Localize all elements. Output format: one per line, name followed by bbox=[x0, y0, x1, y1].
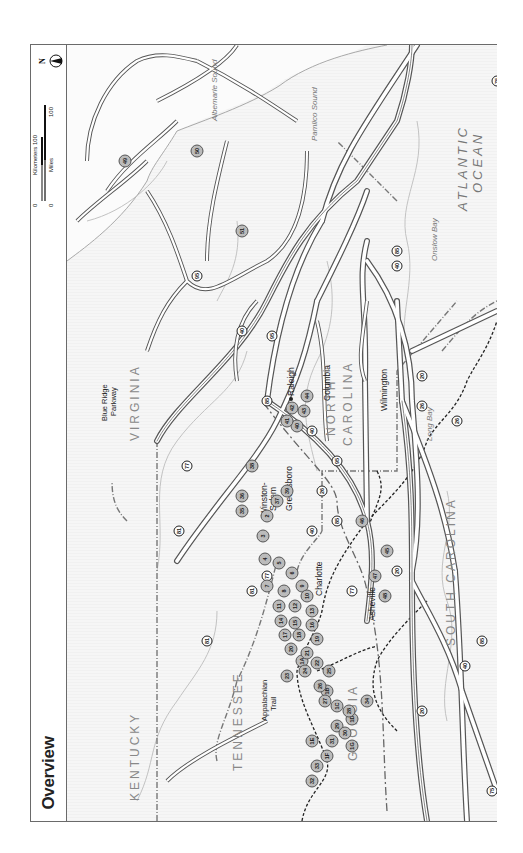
svg-text:3: 3 bbox=[260, 534, 266, 537]
site-marker[interactable]: 12 bbox=[289, 600, 301, 612]
svg-text:26: 26 bbox=[319, 488, 325, 494]
site-marker[interactable]: 25 bbox=[323, 665, 335, 677]
site-marker[interactable]: 48 bbox=[379, 590, 391, 602]
site-marker[interactable]: 1C bbox=[331, 700, 343, 712]
svg-text:77: 77 bbox=[349, 588, 355, 594]
svg-text:12: 12 bbox=[292, 603, 298, 609]
interstate-shield: 77 bbox=[182, 461, 192, 471]
site-marker[interactable]: 20 bbox=[285, 643, 297, 655]
svg-text:44: 44 bbox=[304, 392, 310, 399]
site-marker[interactable]: 6 bbox=[286, 567, 298, 579]
km-max-label: 100 bbox=[32, 134, 38, 145]
site-marker[interactable]: 39 bbox=[281, 485, 293, 497]
site-marker[interactable]: 7 bbox=[261, 580, 273, 592]
site-marker[interactable]: 34 bbox=[361, 695, 373, 707]
svg-text:31: 31 bbox=[329, 738, 335, 744]
site-marker[interactable]: 51 bbox=[236, 225, 248, 237]
svg-text:43: 43 bbox=[301, 408, 307, 414]
header-strip: 0 Kilometers 100 Miles 100 0 bbox=[31, 45, 67, 821]
site-marker[interactable]: 31 bbox=[326, 735, 338, 747]
interstate-shield: 85 bbox=[262, 396, 272, 406]
svg-text:20: 20 bbox=[394, 568, 400, 574]
site-marker[interactable]: 23 bbox=[281, 670, 293, 682]
site-marker[interactable]: 18 bbox=[293, 629, 305, 641]
svg-text:11: 11 bbox=[276, 603, 282, 609]
svg-text:75: 75 bbox=[489, 788, 495, 794]
site-marker[interactable]: 15 bbox=[289, 617, 301, 629]
site-marker[interactable]: 28 bbox=[343, 705, 355, 717]
site-marker[interactable]: 8 bbox=[278, 585, 290, 597]
site-marker[interactable]: 16 bbox=[306, 619, 318, 631]
pamlico-sound-label: Pamlico Sound bbox=[310, 87, 319, 141]
site-marker[interactable]: 45 bbox=[381, 545, 393, 557]
svg-text:17: 17 bbox=[282, 632, 288, 638]
site-marker[interactable]: 24 bbox=[299, 665, 311, 677]
site-marker[interactable]: 43 bbox=[298, 405, 310, 417]
site-marker[interactable]: 38 bbox=[246, 460, 258, 472]
site-marker[interactable]: 1F bbox=[321, 750, 333, 762]
site-marker[interactable]: 37 bbox=[271, 495, 283, 507]
interstate-shield: 81 bbox=[174, 526, 184, 536]
site-marker[interactable]: 41 bbox=[281, 415, 293, 427]
svg-text:26: 26 bbox=[454, 418, 460, 424]
site-marker[interactable]: 36 bbox=[236, 490, 248, 502]
site-marker[interactable]: 32 bbox=[306, 775, 318, 787]
site-marker[interactable]: 17 bbox=[279, 629, 291, 641]
interstate-shield: 20 bbox=[392, 566, 402, 576]
svg-text:46: 46 bbox=[359, 518, 365, 524]
svg-text:35: 35 bbox=[239, 508, 245, 514]
svg-text:29: 29 bbox=[334, 723, 340, 729]
svg-text:47: 47 bbox=[372, 573, 378, 579]
svg-text:32: 32 bbox=[309, 778, 315, 784]
svg-text:25: 25 bbox=[326, 668, 332, 674]
svg-text:50: 50 bbox=[194, 148, 200, 154]
site-marker[interactable]: 30 bbox=[339, 727, 351, 739]
svg-text:26: 26 bbox=[419, 403, 425, 409]
site-marker[interactable]: 27 bbox=[319, 695, 331, 707]
site-marker[interactable]: 2 bbox=[261, 510, 273, 522]
site-marker[interactable]: 35 bbox=[236, 505, 248, 517]
site-marker[interactable]: 1E bbox=[306, 735, 318, 747]
svg-text:20: 20 bbox=[288, 646, 294, 652]
site-marker[interactable]: 50 bbox=[191, 145, 203, 157]
albemarle-sound-label: Albemarle Sound bbox=[210, 59, 219, 122]
svg-text:85: 85 bbox=[394, 248, 400, 254]
svg-text:20: 20 bbox=[419, 373, 425, 379]
site-marker[interactable]: 42 bbox=[286, 402, 298, 414]
svg-text:81: 81 bbox=[249, 588, 255, 594]
svg-text:95: 95 bbox=[194, 273, 200, 279]
svg-text:23: 23 bbox=[284, 673, 290, 679]
site-marker[interactable]: 19 bbox=[311, 633, 323, 645]
site-marker[interactable]: 3 bbox=[257, 530, 269, 542]
svg-text:18: 18 bbox=[296, 632, 302, 638]
state-label-carolina: CAROLINA bbox=[341, 361, 355, 446]
site-marker[interactable]: 10 bbox=[301, 590, 313, 602]
svg-text:7: 7 bbox=[264, 584, 270, 587]
site-marker[interactable]: 11 bbox=[273, 600, 285, 612]
svg-text:81: 81 bbox=[176, 528, 182, 534]
site-marker[interactable]: 22 bbox=[311, 657, 323, 669]
site-marker[interactable]: 21 bbox=[301, 647, 313, 659]
svg-text:20: 20 bbox=[419, 708, 425, 714]
site-marker[interactable]: 49 bbox=[119, 155, 131, 167]
svg-text:27: 27 bbox=[322, 698, 328, 704]
svg-text:28: 28 bbox=[346, 708, 352, 714]
site-marker[interactable]: 33 bbox=[311, 760, 323, 772]
map-canvas[interactable]: KENTUCKY TENNESSEE VIRGINIA NORTH CAROLI… bbox=[67, 45, 497, 821]
site-marker[interactable]: 47 bbox=[369, 570, 381, 582]
site-marker[interactable]: 14 bbox=[275, 615, 287, 627]
svg-text:19: 19 bbox=[314, 636, 320, 642]
svg-text:5: 5 bbox=[276, 561, 282, 564]
site-marker[interactable]: 44 bbox=[301, 390, 313, 402]
site-marker[interactable]: 13 bbox=[306, 605, 318, 617]
svg-text:85: 85 bbox=[264, 398, 270, 404]
svg-text:4: 4 bbox=[262, 557, 268, 561]
svg-text:6: 6 bbox=[289, 571, 295, 574]
site-marker[interactable]: 5 bbox=[273, 557, 285, 569]
interstate-shield: 77 bbox=[347, 586, 357, 596]
north-label: N bbox=[38, 58, 47, 64]
site-marker[interactable]: 26 bbox=[314, 680, 326, 692]
site-marker[interactable]: 46 bbox=[356, 515, 368, 527]
site-marker[interactable]: 4 bbox=[259, 553, 271, 565]
site-marker[interactable]: 1G bbox=[346, 740, 358, 752]
